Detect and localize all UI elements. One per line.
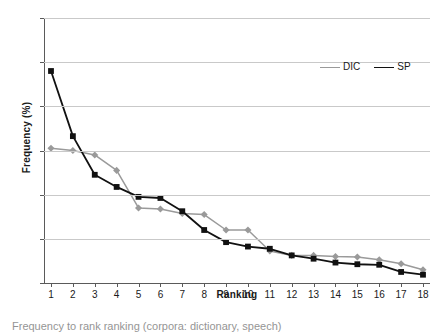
gridline bbox=[44, 18, 430, 19]
data-point-sp bbox=[48, 68, 54, 74]
legend-entry-sp: SP bbox=[374, 62, 410, 72]
x-tick-mark bbox=[292, 283, 293, 287]
x-tick-mark bbox=[95, 283, 96, 287]
data-point-sp bbox=[70, 133, 76, 139]
data-point-sp bbox=[289, 253, 295, 259]
x-tick-mark bbox=[204, 283, 205, 287]
data-point-sp bbox=[267, 246, 273, 252]
data-point-dic bbox=[398, 260, 405, 267]
x-tick-mark bbox=[160, 283, 161, 287]
data-point-dic bbox=[332, 253, 339, 260]
data-point-sp bbox=[245, 244, 251, 250]
y-tick-mark bbox=[40, 62, 44, 63]
legend-swatch-sp bbox=[374, 63, 394, 72]
x-tick-mark bbox=[73, 283, 74, 287]
figure: Frequency (%) 04812162024123456789101112… bbox=[0, 0, 437, 333]
x-tick-mark bbox=[401, 283, 402, 287]
data-point-sp bbox=[333, 260, 339, 266]
gridline bbox=[44, 106, 430, 107]
data-point-sp bbox=[354, 261, 360, 267]
x-tick-mark bbox=[51, 283, 52, 287]
y-tick-mark bbox=[40, 239, 44, 240]
series-line-dic bbox=[51, 148, 423, 269]
data-point-sp bbox=[223, 239, 229, 245]
legend-label-dic: DIC bbox=[343, 62, 360, 72]
data-point-sp bbox=[114, 184, 120, 190]
x-axis-line bbox=[44, 283, 430, 284]
x-tick-mark bbox=[357, 283, 358, 287]
y-tick-mark bbox=[40, 106, 44, 107]
data-point-dic bbox=[135, 204, 142, 211]
y-axis-title: Frequency (%) bbox=[21, 68, 32, 208]
gridline bbox=[44, 195, 430, 196]
gridline bbox=[44, 151, 430, 152]
data-point-sp bbox=[179, 208, 185, 214]
x-tick-mark bbox=[139, 283, 140, 287]
data-point-sp bbox=[311, 256, 317, 262]
line-chart: Frequency (%) 04812162024123456789101112… bbox=[0, 0, 437, 300]
x-tick-mark bbox=[423, 283, 424, 287]
x-tick-mark bbox=[117, 283, 118, 287]
data-point-sp bbox=[420, 272, 426, 278]
x-tick-mark bbox=[314, 283, 315, 287]
y-tick-mark bbox=[40, 18, 44, 19]
legend-swatch-dic bbox=[320, 63, 340, 72]
data-point-sp bbox=[201, 227, 207, 233]
gridline bbox=[44, 239, 430, 240]
legend: DIC SP bbox=[320, 62, 411, 72]
plot-area: 04812162024123456789101112131415161718 bbox=[44, 18, 430, 283]
data-point-sp bbox=[92, 172, 98, 178]
data-point-dic bbox=[354, 254, 361, 261]
y-tick-mark bbox=[40, 195, 44, 196]
legend-label-sp: SP bbox=[397, 62, 410, 72]
data-point-sp bbox=[376, 262, 382, 268]
data-point-dic bbox=[157, 205, 164, 212]
y-tick-mark bbox=[40, 283, 44, 284]
x-axis-title: Ranking bbox=[44, 289, 430, 300]
x-tick-mark bbox=[226, 283, 227, 287]
data-point-sp bbox=[158, 195, 164, 201]
data-point-sp bbox=[398, 269, 404, 275]
figure-caption: Frequency to rank ranking (corpora: dict… bbox=[12, 320, 432, 333]
x-tick-mark bbox=[182, 283, 183, 287]
x-tick-mark bbox=[379, 283, 380, 287]
x-tick-mark bbox=[248, 283, 249, 287]
legend-entry-dic: DIC bbox=[320, 62, 360, 72]
y-tick-mark bbox=[40, 151, 44, 152]
x-tick-mark bbox=[335, 283, 336, 287]
series-line-sp bbox=[51, 71, 423, 275]
x-tick-mark bbox=[270, 283, 271, 287]
